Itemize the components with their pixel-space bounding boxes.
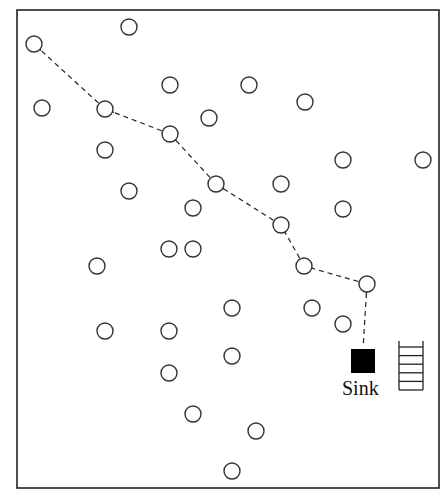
sensor-node[interactable] [201,110,217,126]
sensor-node[interactable] [224,348,240,364]
sensor-node[interactable] [335,152,351,168]
routing-edge [313,268,359,281]
sensor-node[interactable] [224,463,240,479]
sensor-node[interactable] [335,316,351,332]
sensor-node[interactable] [185,406,201,422]
routing-edge [363,293,366,343]
sensor-node[interactable] [273,176,289,192]
network-diagram [0,0,444,496]
sensor-node-on-path[interactable] [97,101,113,117]
sensor-node[interactable] [304,300,320,316]
sensor-node[interactable] [121,19,137,35]
sensor-node[interactable] [297,94,313,110]
sensor-node[interactable] [248,423,264,439]
routing-edge [176,141,210,178]
sensor-node-on-path[interactable] [359,276,375,292]
sensor-node[interactable] [97,142,113,158]
sensor-node[interactable] [161,241,177,257]
sensor-node[interactable] [185,200,201,216]
sensor-node-on-path[interactable] [162,126,178,142]
sensor-node-on-path[interactable] [273,217,289,233]
sink-node-icon[interactable] [351,349,375,373]
queue-buffer-icon [399,341,423,390]
field-border [17,10,439,488]
sensor-node[interactable] [161,323,177,339]
sensor-node[interactable] [97,323,113,339]
sink-label: Sink [342,378,379,398]
routing-edge [113,112,161,131]
sensor-node[interactable] [161,365,177,381]
sensor-node[interactable] [185,241,201,257]
sensor-node[interactable] [241,77,257,93]
sensor-node[interactable] [89,258,105,274]
routing-edge [41,50,99,103]
sensor-node-on-path[interactable] [208,176,224,192]
sensor-node[interactable] [224,300,240,316]
routing-edge [285,233,299,258]
routing-edge [224,189,274,220]
sensor-node-on-path[interactable] [26,36,42,52]
sensor-node[interactable] [162,77,178,93]
sensor-node[interactable] [34,100,50,116]
sensor-node[interactable] [415,152,431,168]
sensor-node[interactable] [335,201,351,217]
routing-path [41,50,367,343]
sensor-nodes [26,19,431,479]
sensor-node-on-path[interactable] [296,258,312,274]
sensor-node[interactable] [121,183,137,199]
